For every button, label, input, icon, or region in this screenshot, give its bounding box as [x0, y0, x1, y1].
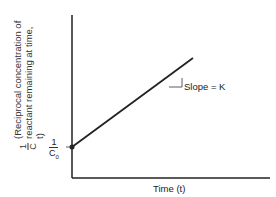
data-line [72, 58, 193, 147]
y-fraction: 1 C [19, 143, 38, 150]
x-axis-label: Time (t) [153, 183, 185, 194]
intercept-num: 1 [49, 137, 58, 148]
intercept-label: 1 C0 [49, 137, 59, 162]
slope-triangle [169, 78, 182, 87]
y-axis-label: 1 C (Reciprocal concentration of reactan… [6, 20, 50, 150]
slope-label: Slope = K [184, 81, 225, 92]
y-axis-text: (Reciprocal concentration of reactant re… [12, 20, 45, 139]
intercept-den: C0 [49, 148, 59, 162]
y-fraction-den: C [29, 143, 38, 150]
